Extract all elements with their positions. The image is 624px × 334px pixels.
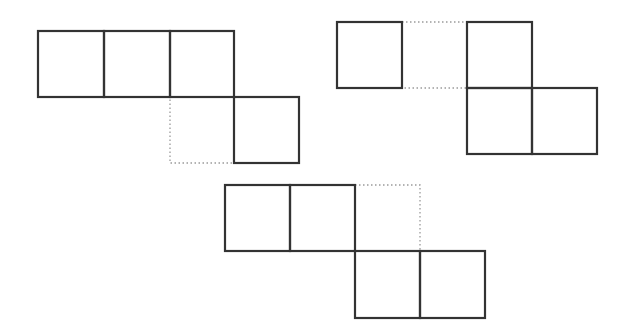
solid-cell bbox=[170, 31, 234, 97]
figure-right bbox=[337, 22, 597, 154]
solid-cell bbox=[420, 251, 485, 318]
solid-cell bbox=[234, 97, 299, 163]
diagram-canvas bbox=[0, 0, 624, 334]
solid-cell bbox=[337, 22, 402, 88]
dotted-cell bbox=[355, 185, 420, 251]
solid-cell bbox=[355, 251, 420, 318]
dotted-cell bbox=[402, 22, 467, 88]
figure-left bbox=[38, 31, 299, 163]
solid-cell bbox=[104, 31, 170, 97]
solid-cell bbox=[290, 185, 355, 251]
solid-cell bbox=[225, 185, 290, 251]
figure-bottom bbox=[225, 185, 485, 318]
solid-cell bbox=[38, 31, 104, 97]
solid-cell bbox=[467, 88, 532, 154]
dotted-cell bbox=[170, 97, 234, 163]
solid-cell bbox=[467, 22, 532, 88]
solid-cell bbox=[532, 88, 597, 154]
